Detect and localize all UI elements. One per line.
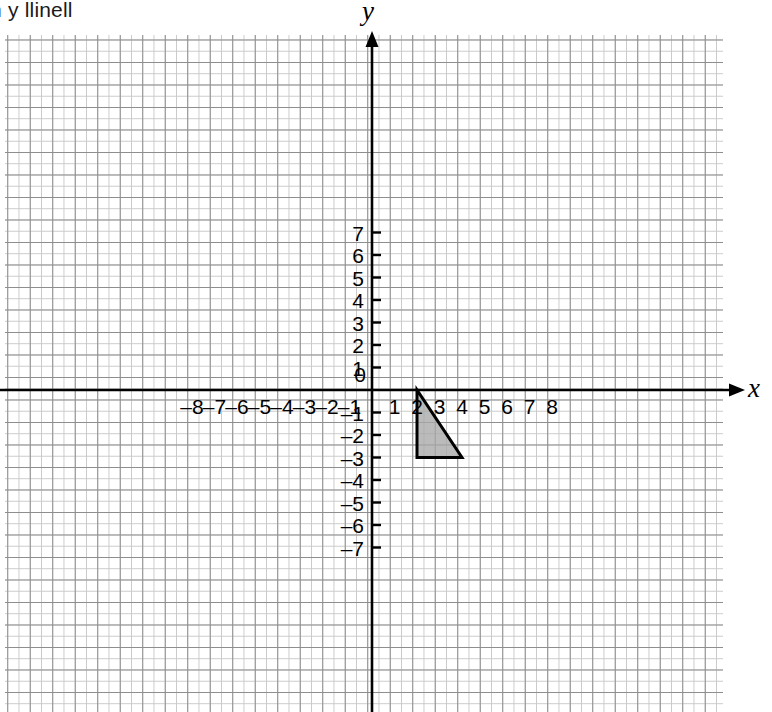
- y-tick-label: 6: [352, 245, 364, 266]
- x-tick-label: 6: [501, 396, 513, 417]
- x-tick-label: 5: [479, 396, 491, 417]
- x-tick-label: –7: [203, 396, 226, 417]
- y-tick-label: 4: [352, 290, 364, 311]
- x-tick-label: –2: [315, 396, 338, 417]
- x-tick-label: –3: [293, 396, 316, 417]
- y-tick-label: –4: [341, 470, 364, 491]
- graph-plate: n y llinell –8–7–6–5–4–3–2–1123456787654…: [0, 0, 772, 712]
- x-axis-arrowhead: [729, 384, 745, 397]
- y-tick-label: –6: [341, 515, 364, 536]
- y-tick-label: –5: [341, 492, 364, 513]
- origin-label: 0: [354, 364, 366, 385]
- y-tick-label: 3: [352, 312, 364, 333]
- x-tick-label: 4: [456, 396, 468, 417]
- y-tick-label: 5: [352, 267, 364, 288]
- x-tick-label: 2: [411, 396, 423, 417]
- x-tick-label: 7: [524, 396, 536, 417]
- x-tick-label: 8: [546, 396, 558, 417]
- y-tick-label: –7: [341, 537, 364, 558]
- y-tick-label: 2: [352, 335, 364, 356]
- y-tick-label: –3: [341, 447, 364, 468]
- x-tick-label: 3: [434, 396, 446, 417]
- y-tick-label: 7: [352, 222, 364, 243]
- x-tick-label: –4: [270, 396, 293, 417]
- y-tick-label: –2: [341, 425, 364, 446]
- x-tick-label: 1: [389, 396, 401, 417]
- y-tick-label: –1: [341, 402, 364, 423]
- x-tick-label: –6: [225, 396, 248, 417]
- x-tick-label: –5: [248, 396, 271, 417]
- x-tick-label: –8: [180, 396, 203, 417]
- y-axis-label: y: [362, 0, 374, 25]
- x-axis-label: x: [748, 375, 760, 402]
- page-caption: n y llinell: [0, 0, 73, 22]
